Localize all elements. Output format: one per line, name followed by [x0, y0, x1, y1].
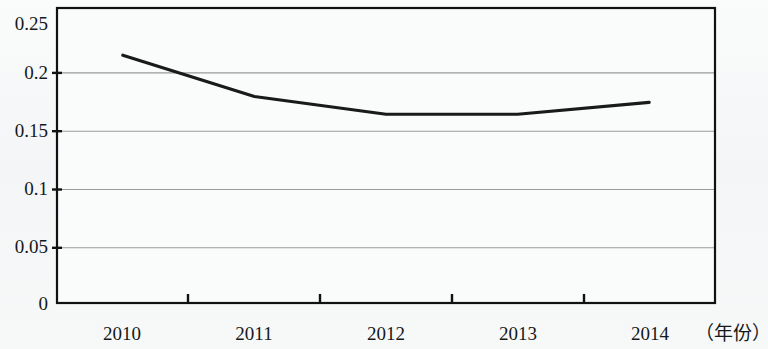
x-axis-tick-label: 2014	[600, 324, 700, 343]
x-axis-tick-label: 2010	[72, 324, 172, 343]
plot-background	[57, 8, 715, 303]
plot-area	[0, 0, 768, 349]
x-axis-tick-label: 2011	[204, 324, 304, 343]
x-axis-tick-label: 2013	[468, 324, 568, 343]
x-axis-title: （年份）	[695, 324, 768, 343]
x-axis-tick-label: 2012	[336, 324, 436, 343]
line-chart: 0.25 0.2 0.15 0.1 0.05 0	[0, 0, 768, 349]
